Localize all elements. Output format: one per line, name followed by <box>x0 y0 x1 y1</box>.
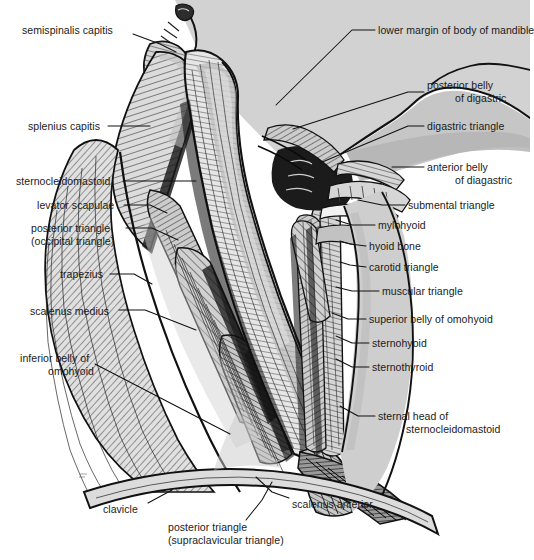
label-text: splenius capitis <box>28 120 100 132</box>
label-levator-scapulae: levator scapulae <box>37 199 114 212</box>
label-anterior-belly-of-digastric: anterior bellyof diagastric <box>427 161 512 186</box>
label-muscular-triangle: muscular triangle <box>382 285 463 298</box>
label-text: inferior belly of <box>20 352 89 364</box>
label-text: sternal head of <box>378 410 448 422</box>
label-text-line2: sternocleidomastoid <box>378 423 500 436</box>
label-text: submental triangle <box>408 199 495 211</box>
label-sternohyoid: sternohyoid <box>372 337 427 350</box>
label-text: sternohyoid <box>372 337 427 349</box>
label-clavicle: clavicle <box>103 503 138 516</box>
label-text: anterior belly <box>427 161 488 173</box>
label-sternothyroid: sternothyroid <box>372 361 433 374</box>
label-text-line2: omohyoid <box>20 365 94 378</box>
label-text: posterior belly <box>427 79 493 91</box>
label-posterior-belly-of-digastric: posterior bellyof digastric <box>427 79 506 104</box>
label-text: hyoid bone <box>369 240 421 252</box>
label-text: scalenus anterior <box>292 498 373 510</box>
label-text: trapezius <box>60 268 103 280</box>
label-text: sternocleidomastoid <box>16 175 110 187</box>
label-text: muscular triangle <box>382 285 463 297</box>
label-digastric-triangle: digastric triangle <box>427 120 504 133</box>
label-text: sternothyroid <box>372 361 433 373</box>
label-scalenus-medius: scalenus medius <box>30 305 109 318</box>
label-carotid-triangle: carotid triangle <box>369 261 439 274</box>
label-splenius-capitis: splenius capitis <box>28 120 100 133</box>
label-scalenus-anterior: scalenus anterior <box>292 498 373 511</box>
label-text: semispinalis capitis <box>22 24 113 36</box>
label-superior-belly-of-omohyoid: superior belly of omohyoid <box>369 313 493 326</box>
label-text-line2: of digastric <box>427 92 506 105</box>
label-text-line2: (occipital triangle) <box>31 235 114 248</box>
label-sternocleidomastoid: sternocleidomastoid <box>16 175 110 188</box>
label-text: posterior triangle <box>168 521 247 533</box>
label-text: mylohyoid <box>378 219 426 231</box>
label-text-line2: of diagastric <box>427 174 512 187</box>
label-mylohyoid: mylohyoid <box>378 219 426 232</box>
label-sternal-head-of-sternocleidomastoid: sternal head ofsternocleidomastoid <box>378 410 500 435</box>
label-text: lower margin of body of mandible <box>378 24 534 36</box>
label-text: scalenus medius <box>30 305 109 317</box>
label-lower-margin-of-body-of-mandible: lower margin of body of mandible <box>378 24 534 37</box>
label-text: carotid triangle <box>369 261 439 273</box>
label-text: digastric triangle <box>427 120 504 132</box>
label-text: posterior triangle <box>31 222 110 234</box>
label-text: clavicle <box>103 503 138 515</box>
label-text: superior belly of omohyoid <box>369 313 493 325</box>
label-semispinalis-capitis: semispinalis capitis <box>22 24 113 37</box>
label-text: levator scapulae <box>37 199 114 211</box>
label-posterior-triangle-occipital: posterior triangle(occipital triangle) <box>31 222 114 247</box>
label-hyoid-bone: hyoid bone <box>369 240 421 253</box>
label-text-line2: (supraclavicular triangle) <box>168 534 284 547</box>
label-trapezius: trapezius <box>60 268 103 281</box>
label-inferior-belly-of-omohyoid: inferior belly ofomohyoid <box>20 352 94 377</box>
label-submental-triangle: submental triangle <box>408 199 495 212</box>
label-posterior-triangle-supraclavicular: posterior triangle(supraclavicular trian… <box>168 521 284 546</box>
